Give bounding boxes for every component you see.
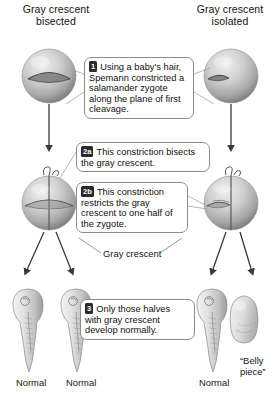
embryo-normal-right <box>197 289 227 372</box>
step-badge-3: 3 <box>85 303 93 314</box>
step-badge-2b: 2b <box>81 186 94 197</box>
label-gray-crescent: Gray crescent <box>103 249 161 260</box>
callout-step-2a: 2aThis constriction bisects the gray cre… <box>76 142 210 172</box>
label-belly-piece: “Belly piece” <box>240 356 278 378</box>
figure-spemann-constriction-experiment: Gray crescent bisected Gray crescent iso… <box>0 0 279 399</box>
arrow-split-right-a <box>212 232 226 272</box>
callout-step-3: 3Only those halves with gray crescent de… <box>80 299 195 340</box>
zygote-mid-left-group <box>22 167 76 230</box>
step-text-1: Using a baby's hair, Spemann constricted… <box>89 62 184 114</box>
label-normal-left-1: Normal <box>16 378 46 389</box>
arrow-split-right-b <box>240 232 252 272</box>
zygote-top-left-group <box>22 49 76 103</box>
step-text-2a: This constriction bisects the gray cresc… <box>81 147 195 168</box>
step-text-2b: This constriction restricts the gray cre… <box>81 187 172 229</box>
callout-step-2b: 2bThis constriction restricts the gray c… <box>76 182 188 233</box>
arrow-split-left-a <box>26 232 44 272</box>
zygote-mid-right-group <box>204 167 258 230</box>
callout-step-1: 1Using a baby's hair, Spemann constricte… <box>84 57 194 119</box>
step-text-3: Only those halves with gray crescent dev… <box>85 304 170 335</box>
step-badge-2a: 2a <box>81 146 93 157</box>
belly-piece-blob <box>230 296 258 343</box>
step-badge-1: 1 <box>89 61 97 72</box>
embryo-normal-left-1 <box>13 289 43 372</box>
arrow-split-left-b <box>56 232 72 272</box>
zygote-top-right-group <box>204 49 258 103</box>
label-normal-right: Normal <box>199 378 229 389</box>
label-normal-left-2: Normal <box>66 378 96 389</box>
